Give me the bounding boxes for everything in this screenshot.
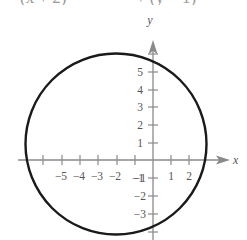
y-tick-label: 1	[137, 137, 143, 149]
x-tick-label: −5	[55, 170, 67, 182]
x-tick-labels: −5 −4 −3 −2 −1 1 2	[55, 170, 192, 184]
y-axis-label: y	[146, 13, 153, 27]
x-tick-label: −2	[109, 170, 121, 182]
y-tick-label: −3	[134, 208, 146, 220]
x-tick-label: −4	[73, 170, 85, 182]
y-tick-label: 5	[137, 66, 143, 78]
y-tick-label: 2	[137, 119, 143, 131]
circle-curve	[26, 54, 207, 235]
y-tick-labels: 5 4 3 2 1 −1 −2 −3	[134, 66, 146, 220]
y-tick-label: −1	[134, 172, 146, 184]
x-axis-label: x	[232, 153, 239, 167]
y-axis: y 5 4 3 2 1 −1 −2 −3	[134, 13, 158, 240]
circle-graph: x −5 −4 −3 −2 −1 1 2 y 5 4	[0, 0, 247, 240]
x-tick-label: 1	[168, 170, 174, 182]
x-tick-label: −3	[91, 170, 103, 182]
x-tick-label: 2	[186, 170, 192, 182]
y-tick-label: 3	[137, 101, 143, 113]
y-tick-label: −2	[134, 190, 146, 202]
y-tick-label: 4	[137, 84, 143, 96]
